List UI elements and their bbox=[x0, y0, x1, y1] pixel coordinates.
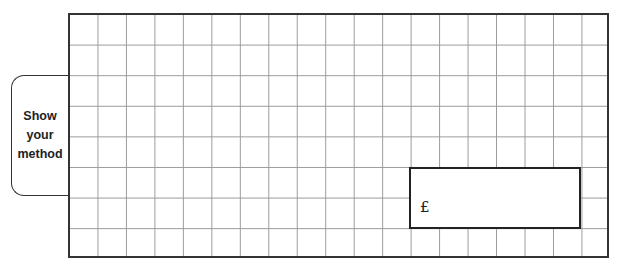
pound-sign: £ bbox=[420, 198, 430, 216]
tab-label-line-3: method bbox=[17, 145, 62, 164]
tab-label-line-2: your bbox=[26, 126, 53, 145]
show-your-method-tab: Show your method bbox=[11, 75, 68, 196]
answer-box[interactable]: £ bbox=[409, 167, 581, 229]
tab-label-line-1: Show bbox=[23, 107, 56, 126]
